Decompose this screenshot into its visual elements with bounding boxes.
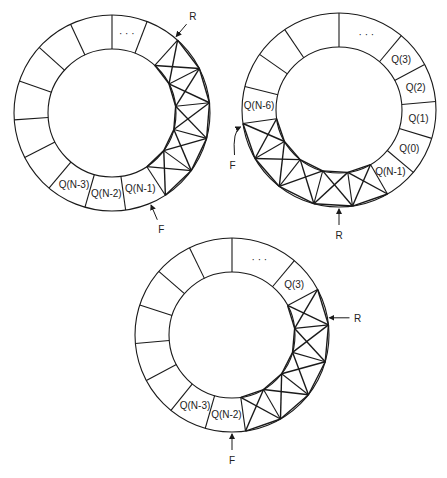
hatch-line: [165, 171, 191, 196]
queue-slot-occupied: [255, 142, 300, 187]
circular-queue-state-2: · · ·Q(3)Q(2)Q(1)Q(0)Q(N-1)Q(N-6)RF: [229, 13, 436, 241]
ellipsis-label: · · ·: [359, 29, 375, 40]
queue-slot-occupied: [241, 390, 281, 431]
slot-divider: [25, 142, 55, 157]
slot-label: Q(N-2): [91, 188, 122, 199]
queue-slot-occupied: [293, 325, 329, 362]
queue-slot: Q(3): [284, 279, 304, 290]
slot-label: Q(1): [409, 113, 429, 124]
slot-divider: [39, 47, 64, 70]
hatch-line: [147, 167, 191, 171]
queue-slot-occupied: [174, 103, 210, 139]
slot-divider: [19, 81, 51, 92]
queue-slot: · · ·: [119, 28, 135, 39]
hatch-line: [155, 65, 199, 68]
front-label: F: [229, 160, 235, 171]
hatch-line: [176, 106, 207, 138]
queue-slot-occupied: [264, 374, 309, 419]
ellipsis-label: · · ·: [119, 28, 135, 39]
queue-slot: Q(1): [409, 113, 429, 124]
queue-slot-occupied: [314, 171, 353, 206]
slot-label: Q(N-3): [180, 400, 211, 411]
hatch-line: [147, 151, 164, 167]
hatch-line: [169, 40, 178, 84]
hatch-line: [284, 142, 300, 160]
hatch-line: [295, 328, 326, 361]
hatch-line: [245, 419, 280, 431]
hatch-line: [155, 65, 169, 84]
queue-slot: Q(3): [391, 54, 411, 65]
slot-label: Q(N-3): [59, 179, 90, 190]
slot-label: Q(N-2): [211, 409, 242, 420]
front-pointer: F: [151, 205, 164, 235]
hatch-line: [281, 395, 309, 419]
circular-queue-state-3: · · ·Q(3)Q(N-2)Q(N-3)RF: [135, 238, 361, 466]
slot-divider: [159, 271, 185, 293]
queue-slot-occupied: [155, 40, 199, 84]
queue-slot: · · ·: [359, 29, 375, 40]
slot-divider: [155, 40, 178, 65]
front-pointer: F: [229, 127, 240, 171]
slot-label: Q(3): [391, 54, 411, 65]
slot-divider: [245, 87, 278, 95]
queue-slot: Q(N-3): [59, 179, 90, 190]
front-pointer: F: [229, 434, 235, 466]
slot-label: Q(N-1): [125, 183, 156, 194]
hatch-line: [199, 69, 209, 103]
slot-divider: [399, 128, 432, 138]
hatch-line: [255, 159, 279, 187]
circular-queue-state-1: · · ·Q(N-1)Q(N-2)Q(N-3)RF: [14, 11, 210, 235]
queue-slot: Q(N-6): [244, 100, 275, 111]
slot-label: Q(0): [399, 143, 419, 154]
front-label: F: [158, 224, 164, 235]
hatch-line: [164, 151, 166, 196]
slot-divider: [146, 365, 176, 381]
slot-divider: [395, 64, 425, 80]
slot-label: Q(3): [284, 279, 304, 290]
slot-label: Q(2): [406, 82, 426, 93]
queue-slot: Q(N-1): [125, 183, 156, 194]
queue-slot: Q(N-1): [375, 166, 406, 177]
hatch-line: [308, 362, 325, 395]
rear-pointer: R: [335, 209, 342, 241]
hatch-line: [174, 106, 176, 129]
slot-divider: [14, 117, 48, 119]
slot-divider: [71, 24, 85, 55]
slot-divider: [260, 54, 288, 74]
slot-divider: [402, 102, 436, 105]
slot-divider: [140, 305, 172, 316]
slot-divider: [135, 22, 147, 54]
queue-slot: · · ·: [252, 254, 268, 265]
ellipsis-label: · · ·: [252, 254, 268, 265]
slot-divider: [285, 30, 304, 58]
queue-slot: Q(N-2): [91, 188, 122, 199]
rear-label: R: [335, 230, 342, 241]
pointer-arrow: [234, 127, 240, 155]
queue-slot: Q(N-3): [180, 400, 211, 411]
hatch-line: [279, 142, 284, 187]
slot-divider: [189, 248, 204, 279]
slot-label: Q(N-6): [244, 100, 275, 111]
hatch-line: [314, 172, 348, 203]
rear-pointer: R: [176, 11, 196, 36]
slot-divider: [243, 119, 277, 124]
queue-slot-occupied: [282, 352, 326, 394]
hatch-line: [255, 159, 300, 160]
hatch-line: [318, 289, 329, 324]
hatch-line: [243, 123, 255, 158]
hatch-line: [281, 374, 282, 419]
front-label: F: [229, 455, 235, 466]
slot-label: Q(N-1): [375, 166, 406, 177]
slot-divider: [135, 340, 169, 343]
rear-label: R: [189, 11, 196, 22]
queue-slot: Q(N-2): [211, 409, 242, 420]
hatch-line: [178, 40, 200, 68]
pointer-arrow: [151, 205, 157, 220]
hatch-line: [264, 374, 282, 390]
queue-slot-occupied: [243, 119, 284, 159]
pointer-arrow: [176, 24, 186, 36]
queue-slot: Q(0): [399, 143, 419, 154]
hatch-line: [352, 194, 387, 206]
queue-slot-occupied: [164, 130, 207, 171]
queue-slot: Q(2): [406, 82, 426, 93]
